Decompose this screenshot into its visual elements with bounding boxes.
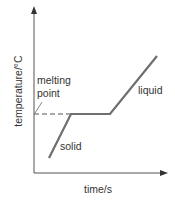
y-axis-label: temperature/°C <box>12 55 24 126</box>
liquid-label: liquid <box>138 84 163 96</box>
heating-curve-chart <box>0 0 175 204</box>
melting-label-line2: point <box>37 87 60 99</box>
solid-label: solid <box>60 140 82 152</box>
y-axis-arrow-icon <box>31 6 37 14</box>
x-axis-label: time/s <box>84 183 112 195</box>
melting-point-leader-line <box>35 102 42 113</box>
melting-label-line1: melting <box>37 74 71 86</box>
x-axis-arrow-icon <box>160 170 168 176</box>
